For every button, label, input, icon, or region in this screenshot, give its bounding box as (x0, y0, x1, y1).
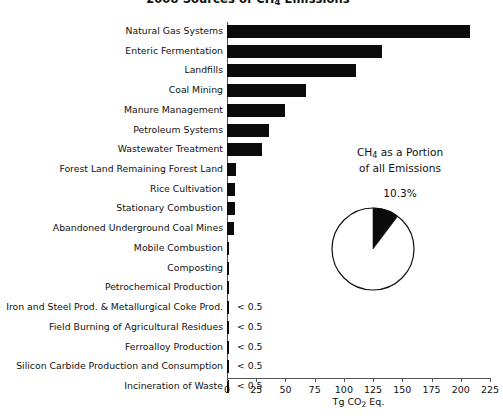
bar-category-label: Ferroalloy Production (125, 340, 223, 353)
bar-category-label: Iron and Steel Prod. & Metallurgical Cok… (6, 300, 223, 313)
bar (227, 64, 356, 77)
bar-row: Landfills (0, 61, 496, 81)
x-axis-tick (490, 378, 491, 382)
x-axis-title: Tg CO2 Eq. (227, 396, 490, 407)
bar-category-label: Coal Mining (169, 83, 223, 96)
x-axis-title-suffix: Eq. (366, 396, 384, 407)
bar (227, 183, 235, 196)
bar-value-label: < 0.5 (237, 320, 263, 333)
bar-category-label: Forest Land Remaining Forest Land (59, 162, 223, 175)
bar (227, 301, 229, 314)
x-axis-line (227, 378, 490, 379)
bar-category-label: Silicon Carbide Production and Consumpti… (16, 359, 223, 372)
bar (227, 45, 382, 58)
bar (227, 143, 262, 156)
x-axis-tick (285, 378, 286, 382)
bar-category-label: Stationary Combustion (116, 201, 223, 214)
bar-row: Iron and Steel Prod. & Metallurgical Cok… (0, 298, 496, 318)
inset-pie-percent-label: 10.3% (312, 187, 488, 199)
inset-pie-caption-prefix: CH (357, 146, 372, 158)
x-axis-tick (432, 378, 433, 382)
bar-category-label: Manure Management (124, 103, 223, 116)
bar-row: Petroleum Systems (0, 121, 496, 141)
inset-pie-graphic (330, 206, 416, 292)
bar-category-label: Petrochemical Production (105, 280, 223, 293)
bar (227, 222, 234, 235)
x-axis-tick (461, 378, 462, 382)
bar (227, 281, 229, 294)
x-axis-tick (256, 378, 257, 382)
bar (227, 25, 470, 38)
bar-row: Silicon Carbide Production and Consumpti… (0, 357, 496, 377)
bar-value-label: < 0.5 (237, 359, 263, 372)
x-axis-tick (315, 378, 316, 382)
bar (227, 124, 269, 137)
inset-pie-chart: CH4 as a Portion of all Emissions 10.3% (312, 145, 488, 295)
bar-category-label: Rice Cultivation (150, 182, 223, 195)
bar-row: Natural Gas Systems (0, 22, 496, 42)
bar-category-label: Petroleum Systems (133, 123, 223, 136)
bar (227, 104, 285, 117)
bar-category-label: Composting (167, 261, 223, 274)
inset-pie-caption-subscript: 4 (372, 151, 377, 160)
x-axis-tick (402, 378, 403, 382)
bar-category-label: Field Burning of Agricultural Residues (49, 320, 223, 333)
inset-pie-caption-suffix: as a Portion (377, 146, 443, 158)
bar-category-label: Natural Gas Systems (126, 24, 223, 37)
bar-row: Ferroalloy Production< 0.5 (0, 338, 496, 358)
chart-title: 2008 Sources of CH4 Emissions (0, 0, 496, 6)
chart-title-prefix: 2008 Sources of CH (146, 0, 274, 6)
bar (227, 163, 236, 176)
bar-row: Manure Management (0, 101, 496, 121)
bar-category-label: Mobile Combustion (134, 241, 223, 254)
bar-row: Field Burning of Agricultural Residues< … (0, 318, 496, 338)
inset-pie-caption-line2: of all Emissions (359, 162, 441, 174)
bar-value-label: < 0.5 (237, 340, 263, 353)
bar (227, 202, 235, 215)
bar-category-label: Landfills (184, 63, 223, 76)
chart-title-suffix: Emissions (280, 0, 349, 6)
bar-value-label: < 0.5 (237, 300, 263, 313)
x-axis-tick (227, 378, 228, 382)
chart-title-subscript: 4 (274, 0, 280, 7)
inset-pie-caption: CH4 as a Portion of all Emissions (312, 145, 488, 175)
x-axis-tick-label: 225 (470, 384, 503, 395)
bar-category-label: Enteric Fermentation (125, 44, 223, 57)
bar-row: Enteric Fermentation (0, 42, 496, 62)
bar (227, 321, 229, 334)
x-axis-tick (344, 378, 345, 382)
x-axis-tick (373, 378, 374, 382)
bar (227, 341, 229, 354)
bar-category-label: Abandoned Underground Coal Mines (53, 221, 223, 234)
x-axis-title-subscript: 2 (362, 400, 367, 409)
bar (227, 242, 229, 255)
bar-category-label: Wastewater Treatment (118, 142, 223, 155)
bar (227, 360, 229, 373)
bar (227, 262, 229, 275)
bar (227, 84, 306, 97)
x-axis-title-prefix: Tg CO (333, 396, 362, 407)
bar-row: Coal Mining (0, 81, 496, 101)
